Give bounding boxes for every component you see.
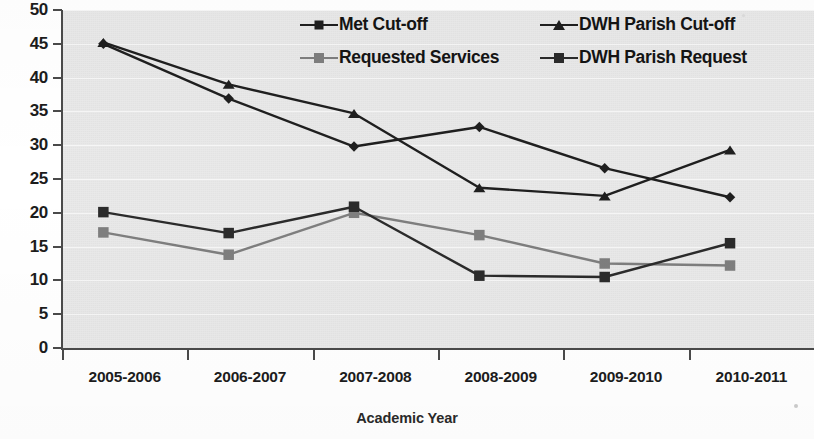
- x-axis-tick-label: 2006-2007: [185, 368, 315, 386]
- chart-legend: Met Cut-offDWH Parish Cut-offRequested S…: [300, 8, 810, 74]
- y-axis-tick-label: 40: [4, 69, 48, 86]
- y-axis-tick: [53, 178, 62, 180]
- y-axis-tick: [53, 77, 62, 79]
- scan-speck: [794, 404, 798, 408]
- y-axis-tick-label: 5: [4, 305, 48, 322]
- x-axis-title: Academic Year: [0, 410, 814, 426]
- gridline: [62, 247, 814, 248]
- y-axis-tick: [53, 279, 62, 281]
- gridline: [62, 213, 814, 214]
- x-axis-tick: [62, 350, 64, 360]
- y-axis-tick-label: 50: [4, 1, 48, 18]
- y-axis-tick-label: 15: [4, 238, 48, 255]
- legend-item[interactable]: DWH Parish Cut-off: [540, 14, 810, 35]
- legend-marker-icon: [300, 17, 338, 33]
- gridline: [62, 145, 814, 146]
- y-axis-tick-label: 35: [4, 102, 48, 119]
- y-axis-line: [61, 10, 63, 350]
- legend-marker-icon: [300, 50, 338, 66]
- y-axis-tick-label: 20: [4, 204, 48, 221]
- y-axis-tick: [53, 313, 62, 315]
- legend-marker-icon: [540, 50, 578, 66]
- x-axis-tick-label: 2007-2008: [310, 368, 440, 386]
- legend-marker-icon: [540, 17, 578, 33]
- y-axis-tick-label: 0: [4, 339, 48, 356]
- gridline: [62, 179, 814, 180]
- legend-label: DWH Parish Request: [579, 47, 747, 68]
- y-axis-tick-label: 10: [4, 271, 48, 288]
- x-axis-tick: [689, 350, 691, 360]
- y-axis-tick-label: 45: [4, 35, 48, 52]
- y-axis-tick-label: 25: [4, 170, 48, 187]
- gridline: [62, 78, 814, 79]
- gridline: [62, 111, 814, 112]
- y-axis-tick-label: 30: [4, 136, 48, 153]
- legend-marker-glyph-triangle: [553, 20, 565, 30]
- legend-label: Requested Services: [339, 47, 499, 68]
- y-axis-tick: [53, 212, 62, 214]
- legend-item[interactable]: DWH Parish Request: [540, 47, 810, 68]
- gridline: [62, 280, 814, 281]
- x-axis-tick-label: 2008-2009: [436, 368, 566, 386]
- y-axis-tick: [53, 9, 62, 11]
- x-axis-tick: [313, 350, 315, 360]
- legend-marker-glyph-square-gray: [314, 53, 324, 63]
- x-axis-tick-label: 2009-2010: [561, 368, 691, 386]
- x-axis-tick-label: 2010-2011: [686, 368, 814, 386]
- legend-label: DWH Parish Cut-off: [579, 14, 735, 35]
- legend-item[interactable]: Met Cut-off: [300, 14, 540, 35]
- y-axis-tick: [53, 43, 62, 45]
- line-chart: 05101520253035404550 2005-20062006-20072…: [0, 0, 814, 439]
- x-axis-tick-label: 2005-2006: [60, 368, 190, 386]
- legend-label: Met Cut-off: [339, 14, 427, 35]
- y-axis-tick: [53, 110, 62, 112]
- legend-marker-glyph-square-dark: [554, 53, 564, 63]
- y-axis-tick: [53, 246, 62, 248]
- x-axis-tick: [438, 350, 440, 360]
- y-axis-tick: [53, 144, 62, 146]
- x-axis-tick: [563, 350, 565, 360]
- legend-item[interactable]: Requested Services: [300, 47, 540, 68]
- x-axis-tick: [187, 350, 189, 360]
- legend-marker-glyph-diamond: [315, 20, 324, 29]
- gridline: [62, 314, 814, 315]
